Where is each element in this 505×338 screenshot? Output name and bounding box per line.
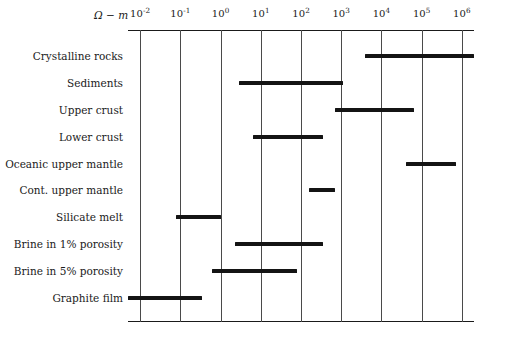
range-bar — [212, 269, 296, 273]
x-tick-label--1: 10-1 — [170, 8, 190, 19]
x-tick-label-5: 105 — [413, 8, 431, 19]
range-bar — [365, 54, 474, 58]
category-label: Cont. upper mantle — [19, 185, 123, 196]
plot-area — [128, 30, 474, 322]
x-tick-label-1: 101 — [252, 8, 270, 19]
x-axis-unit-label: Ω − m — [94, 9, 128, 21]
category-label: Crystalline rocks — [33, 51, 123, 62]
category-label: Brine in 1% porosity — [14, 239, 123, 250]
x-tick-label--2: 10-2 — [130, 8, 150, 19]
gridline-1e6 — [462, 30, 463, 322]
category-label: Oceanic upper mantle — [5, 158, 123, 169]
x-tick-label-3: 103 — [332, 8, 350, 19]
range-bar — [406, 162, 456, 166]
gridline-1e5 — [422, 30, 423, 322]
x-tick-label-2: 102 — [292, 8, 310, 19]
category-label: Sediments — [67, 78, 123, 89]
resistivity-range-chart: 10-210-1100101102103104105106Ω − m Cryst… — [0, 0, 505, 338]
range-bar — [239, 81, 344, 85]
category-label: Lower crust — [59, 131, 123, 142]
gridline-1e0 — [221, 30, 222, 322]
gridline-1e3 — [341, 30, 342, 322]
range-bar — [176, 215, 220, 219]
range-bar — [253, 135, 323, 139]
gridline-1e2 — [301, 30, 302, 322]
range-bar — [335, 108, 413, 112]
category-labels: Crystalline rocksSedimentsUpper crustLow… — [0, 30, 123, 322]
gridline-1e1 — [261, 30, 262, 322]
x-tick-label-6: 106 — [453, 8, 471, 19]
range-bar — [235, 242, 324, 246]
x-axis: 10-210-1100101102103104105106Ω − m — [0, 0, 505, 30]
category-label: Upper crust — [59, 105, 123, 116]
category-label: Brine in 5% porosity — [14, 266, 123, 277]
x-tick-label-4: 104 — [373, 8, 391, 19]
category-label: Graphite film — [52, 293, 123, 304]
gridline-1e4 — [381, 30, 382, 322]
gridline-1e-2 — [140, 30, 141, 322]
category-label: Silicate melt — [56, 212, 123, 223]
range-bar — [309, 188, 335, 192]
gridline-1e-1 — [180, 30, 181, 322]
x-tick-label-0: 100 — [212, 8, 230, 19]
range-bar — [128, 296, 202, 300]
